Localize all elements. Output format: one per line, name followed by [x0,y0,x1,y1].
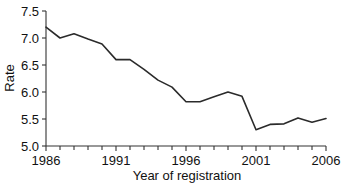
line-chart: 5.05.56.06.57.07.5 19861991199620012006 … [0,0,341,186]
x-tick-label: 1991 [102,153,131,168]
chart-canvas: 5.05.56.06.57.07.5 19861991199620012006 … [0,0,341,186]
x-tick-label: 1986 [32,153,61,168]
y-axis-tick-labels: 5.05.56.06.57.07.5 [21,4,39,154]
x-axis-tick-marks [46,146,326,151]
rate-series-line [46,27,326,130]
y-axis-title: Rate [2,64,17,91]
y-tick-label: 5.5 [21,112,39,127]
y-tick-label: 7.5 [21,4,39,19]
y-tick-label: 6.5 [21,58,39,73]
x-axis-tick-labels: 19861991199620012006 [32,153,341,168]
x-axis-title: Year of registration [133,168,242,183]
y-tick-label: 6.0 [21,85,39,100]
x-tick-label: 2001 [242,153,271,168]
x-tick-label: 2006 [312,153,341,168]
y-axis-tick-marks [42,11,46,146]
y-tick-label: 5.0 [21,139,39,154]
y-tick-label: 7.0 [21,31,39,46]
x-tick-label: 1996 [172,153,201,168]
